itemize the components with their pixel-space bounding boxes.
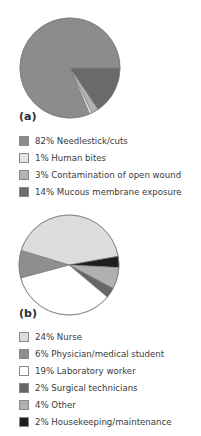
legend-swatch	[19, 366, 29, 376]
legend-label: 1% Human bites	[35, 153, 106, 163]
legend-b-item: 24% Nurse	[19, 328, 171, 345]
legend-b: 24% Nurse6% Physician/medical student19%…	[19, 328, 171, 430]
legend-b-item: 19% Laboratory worker	[19, 362, 171, 379]
legend-a-item: 82% Needlestick/cuts	[19, 132, 182, 149]
legend-swatch	[19, 332, 29, 342]
legend-b-item: 2% Housekeeping/maintenance	[19, 413, 171, 430]
legend-swatch	[19, 383, 29, 393]
legend-swatch	[19, 349, 29, 359]
legend-b-item: 4% Other	[19, 396, 171, 413]
legend-swatch	[19, 136, 29, 146]
legend-label: 3% Contamination of open wound	[35, 170, 181, 180]
legend-b-item: 6% Physician/medical student	[19, 345, 171, 362]
legend-label: 24% Nurse	[35, 332, 82, 342]
legend-label: 2% Housekeeping/maintenance	[35, 417, 171, 427]
legend-label: 4% Other	[35, 400, 76, 410]
panel-label-b: (b)	[19, 307, 37, 320]
legend-a-item: 14% Mucous membrane exposure	[19, 183, 182, 200]
legend-label: 82% Needlestick/cuts	[35, 136, 128, 146]
legend-label: 2% Surgical technicians	[35, 383, 138, 393]
pie-b-svg	[0, 200, 201, 322]
legend-swatch	[19, 417, 29, 427]
legend-label: 6% Physician/medical student	[35, 349, 164, 359]
legend-swatch	[19, 187, 29, 197]
pie-chart-a	[0, 0, 201, 122]
legend-label: 19% Laboratory worker	[35, 366, 136, 376]
legend-a: 82% Needlestick/cuts1% Human bites3% Con…	[19, 132, 182, 200]
legend-a-item: 3% Contamination of open wound	[19, 166, 182, 183]
pie-a-svg	[0, 0, 201, 122]
legend-a-item: 1% Human bites	[19, 149, 182, 166]
legend-b-item: 2% Surgical technicians	[19, 379, 171, 396]
legend-label: 14% Mucous membrane exposure	[35, 187, 182, 197]
pie-chart-b	[0, 200, 201, 322]
legend-swatch	[19, 170, 29, 180]
legend-swatch	[19, 153, 29, 163]
legend-swatch	[19, 400, 29, 410]
panel-label-a: (a)	[19, 110, 36, 123]
